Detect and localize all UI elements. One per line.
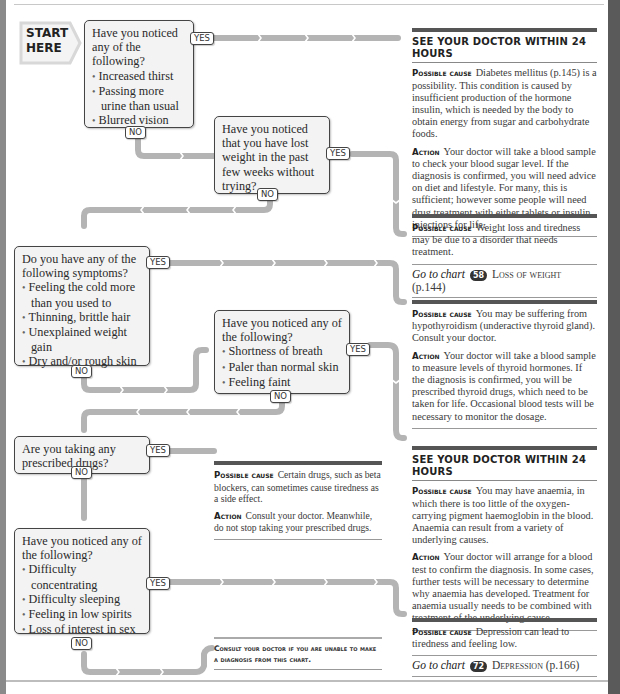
consult-top-rule bbox=[214, 637, 382, 639]
question-box-6: Have you noticed any of the following? D… bbox=[14, 528, 150, 634]
urgency-header: SEE YOUR DOCTOR WITHIN 24 HOURS bbox=[412, 36, 597, 63]
result-top-rule bbox=[412, 300, 597, 304]
urgency-header: SEE YOUR DOCTOR WITHIN 24 HOURS bbox=[412, 454, 597, 481]
yes-label[interactable]: YES bbox=[146, 577, 170, 590]
flowchart-page: START HERE Have you noticed any of the f… bbox=[0, 0, 620, 694]
no-label[interactable]: NO bbox=[257, 188, 278, 201]
symptom-item: Unexplained weight gain bbox=[22, 325, 142, 354]
symptom-item: Shortness of breath bbox=[222, 344, 342, 359]
yes-label[interactable]: YES bbox=[146, 256, 170, 269]
symptom-item: Feeling in low spirits bbox=[22, 607, 142, 622]
question-box-1: Have you noticed any of the following? I… bbox=[84, 20, 194, 128]
yes-label[interactable]: YES bbox=[190, 32, 214, 45]
result-top-rule bbox=[412, 618, 597, 622]
result-box-anaemia: SEE YOUR DOCTOR WITHIN 24 HOURS Possible… bbox=[412, 446, 597, 631]
action-label: Action bbox=[412, 147, 440, 157]
no-label[interactable]: NO bbox=[125, 126, 146, 139]
goto-title: Loss of weight bbox=[492, 268, 561, 280]
consult-note: Consult your doctor if you are unable to… bbox=[214, 637, 382, 670]
goto-prefix: Go to chart bbox=[412, 268, 465, 280]
chart-number-badge: 58 bbox=[470, 270, 487, 281]
possible-cause-label: Possible cause bbox=[412, 68, 472, 78]
no-label[interactable]: NO bbox=[270, 390, 291, 403]
symptom-item: Feeling faint bbox=[222, 375, 342, 390]
symptom-item: Loss of interest in sex bbox=[22, 622, 142, 637]
question-text: Do you have any of the following symptom… bbox=[22, 252, 142, 280]
question-box-3: Do you have any of the following symptom… bbox=[14, 246, 150, 366]
no-label[interactable]: NO bbox=[71, 365, 92, 378]
action-label: Action bbox=[214, 511, 242, 521]
start-label-line2: HERE bbox=[18, 41, 80, 56]
result-box-weight-loss: Possible causeWeight loss and tiredness … bbox=[412, 214, 597, 298]
symptom-item: Increased thirst bbox=[92, 69, 186, 84]
result-top-rule bbox=[412, 214, 597, 218]
possible-cause-text: Diabetes mellitus (p.145) is a possibili… bbox=[412, 67, 597, 139]
chart-number-badge: 72 bbox=[470, 661, 487, 672]
symptom-item: Thinning, brittle hair bbox=[22, 310, 142, 325]
consult-bottom-rule bbox=[214, 669, 382, 670]
symptom-item: Difficulty concentrating bbox=[22, 562, 142, 591]
possible-cause-label: Possible cause bbox=[412, 627, 472, 637]
result-bottom-rule bbox=[412, 676, 597, 677]
symptom-item: Paler than normal skin bbox=[222, 360, 342, 375]
goto-page: (p.166) bbox=[546, 659, 580, 671]
result-top-rule bbox=[412, 28, 597, 32]
action-text: Your doctor will arrange for a blood tes… bbox=[412, 551, 594, 623]
symptom-item: Passing more urine than usual bbox=[92, 84, 186, 113]
goto-title: Depression bbox=[492, 659, 543, 671]
action-label: Action bbox=[412, 552, 440, 562]
result-bottom-rule bbox=[214, 539, 382, 540]
question-text: Have you noticed any of the following? bbox=[222, 316, 342, 344]
start-label-line1: START bbox=[18, 20, 80, 41]
result-bottom-rule bbox=[412, 297, 597, 298]
result-box-drugs: Possible causeCertain drugs, such as bet… bbox=[214, 461, 382, 540]
question-text: Have you noticed any of the following? bbox=[22, 534, 142, 562]
result-bottom-rule bbox=[412, 428, 597, 429]
question-text: Have you noticed any of the following? bbox=[92, 26, 186, 69]
question-box-4: Have you noticed any of the following? S… bbox=[214, 310, 350, 394]
action-label: Action bbox=[412, 351, 440, 361]
question-text: Have you noticed that you have lost weig… bbox=[222, 122, 322, 193]
yes-label[interactable]: YES bbox=[346, 343, 370, 356]
possible-cause-label: Possible cause bbox=[412, 486, 472, 496]
symptom-item: Feeling the cold more than you used to bbox=[22, 280, 142, 309]
no-label[interactable]: NO bbox=[71, 466, 92, 479]
result-box-hypothyroidism: Possible causeYou may be suffering from … bbox=[412, 300, 597, 429]
goto-chart-link[interactable]: Go to chart 58 Loss of weight (p.144) bbox=[412, 264, 597, 297]
result-box-diabetes: SEE YOUR DOCTOR WITHIN 24 HOURS Possible… bbox=[412, 28, 597, 237]
symptom-item: Difficulty sleeping bbox=[22, 592, 142, 607]
no-label[interactable]: NO bbox=[71, 637, 92, 650]
possible-cause-label: Possible cause bbox=[412, 223, 472, 233]
yes-label[interactable]: YES bbox=[146, 444, 170, 457]
goto-chart-link[interactable]: Go to chart 72 Depression (p.166) bbox=[412, 655, 597, 676]
yes-label[interactable]: YES bbox=[326, 147, 350, 160]
result-top-rule bbox=[412, 446, 597, 450]
possible-cause-label: Possible cause bbox=[412, 309, 472, 319]
goto-page: (p.144) bbox=[412, 281, 446, 293]
result-box-depression: Possible causeDepression can lead to tir… bbox=[412, 618, 597, 677]
goto-prefix: Go to chart bbox=[412, 659, 465, 671]
question-box-2: Have you noticed that you have lost weig… bbox=[214, 116, 330, 194]
consult-text: Consult your doctor if you are unable to… bbox=[214, 643, 382, 665]
result-top-rule bbox=[214, 461, 382, 465]
start-here-marker: START HERE bbox=[18, 20, 80, 60]
possible-cause-label: Possible cause bbox=[214, 470, 274, 480]
